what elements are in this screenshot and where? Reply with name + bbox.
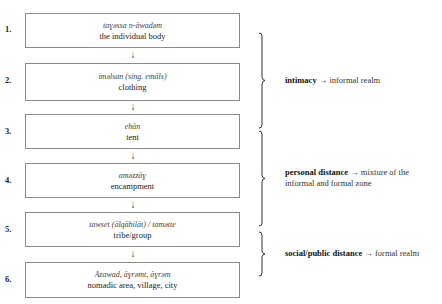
down-arrow-icon: ↓ [127, 151, 139, 161]
down-arrow-icon: ↓ [127, 249, 139, 259]
down-arrow-icon: ↓ [127, 102, 139, 112]
group-label-social-public-distance: social/public distance → formal realm [285, 248, 419, 259]
step-box-3: ehăn tent [25, 114, 240, 149]
step-term-6: Azawad, ăɣrəmt, ăɣrəm [26, 269, 239, 280]
curly-brace-icon [258, 231, 270, 277]
step-term-4: aməzzăɣ [26, 170, 239, 181]
group-label-intimacy: intimacy → informal realm [285, 75, 380, 86]
group-key: intimacy [285, 75, 317, 85]
group-description: informal realm [329, 75, 380, 85]
step-gloss-2: clothing [26, 82, 239, 93]
step-box-4: aməzzăɣ encampment [25, 163, 240, 198]
step-box-1: taɣəssa n-ăwadəm the individual body [25, 13, 240, 48]
step-number-1: 1. [5, 24, 11, 34]
step-number-6: 6. [5, 274, 11, 284]
right-arrow-icon: → [319, 75, 328, 85]
step-number-4: 4. [5, 175, 11, 185]
step-gloss-4: encampment [26, 181, 239, 192]
group-key: personal distance [285, 167, 348, 177]
step-box-6: Azawad, ăɣrəmt, ăɣrəm nomadic area, vill… [25, 262, 240, 298]
group-description: formal realm [375, 248, 419, 258]
step-gloss-6: nomadic area, village, city [26, 280, 239, 291]
step-term-1: taɣəssa n-ăwadəm [26, 20, 239, 31]
group-description-cont: informal and formal zone [285, 178, 409, 189]
step-number-3: 3. [5, 126, 11, 136]
step-gloss-5: tribe/group [26, 230, 239, 241]
right-arrow-icon: → [350, 167, 359, 177]
step-term-2: iməlsan (sing. emăls) [26, 71, 239, 82]
step-number-5: 5. [5, 224, 11, 234]
right-arrow-icon: → [364, 248, 373, 258]
group-key: social/public distance [285, 248, 362, 258]
step-term-5: tawset (ălqăbilăt) / tamətte [26, 219, 239, 230]
step-gloss-3: tent [26, 132, 239, 143]
step-gloss-1: the individual body [26, 31, 239, 42]
curly-brace-icon [258, 130, 270, 227]
down-arrow-icon: ↓ [127, 50, 139, 60]
down-arrow-icon: ↓ [127, 200, 139, 210]
step-box-5: tawset (ălqăbilăt) / tamətte tribe/group [25, 212, 240, 247]
group-description: mixture of the [361, 167, 409, 177]
curly-brace-icon [258, 32, 270, 129]
step-term-3: ehăn [26, 121, 239, 132]
step-number-2: 2. [5, 75, 11, 85]
group-label-personal-distance: personal distance → mixture of the infor… [285, 167, 409, 189]
step-box-2: iməlsan (sing. emăls) clothing [25, 63, 240, 101]
